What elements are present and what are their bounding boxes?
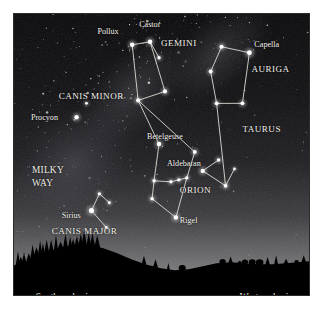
star-ori-belt2 — [177, 178, 180, 181]
tree-trunk — [65, 246, 66, 249]
label-constellation-canis-major: CANIS MAJOR — [52, 226, 118, 236]
tree-trunk — [51, 249, 52, 252]
tree-trunk — [92, 245, 93, 248]
star-sirius — [89, 208, 94, 213]
star-procyon — [74, 115, 78, 119]
star-ori-belt3 — [185, 176, 188, 179]
star-aur-capella — [247, 50, 252, 55]
tree-trunk — [259, 264, 260, 266]
tree-trunk — [276, 263, 277, 266]
tree-trunk — [97, 246, 98, 249]
label-constellation-auriga: AURIGA — [251, 64, 289, 74]
label-star-capella: Capella — [254, 40, 279, 49]
label-southern-horizon: Southern horizon — [36, 292, 102, 295]
tree-trunk — [252, 263, 253, 265]
tree-trunk — [80, 244, 81, 247]
tree-trunk — [70, 245, 71, 248]
tree-trunk — [42, 252, 43, 255]
tree-trunk — [36, 255, 37, 258]
label-constellation-taurus: TAURUS — [242, 124, 280, 134]
star-cma-e — [108, 201, 111, 204]
star-betelgeuse — [157, 142, 162, 147]
sky-map: PolluxCastorCapellaProcyonBetelgeuseAlde… — [14, 14, 309, 295]
label-constellation-canis-minor: CANIS MINOR — [59, 91, 124, 101]
star-gem-se — [163, 89, 167, 93]
tree-trunk — [28, 259, 29, 262]
star-chart-frame: PolluxCastorCapellaProcyonBetelgeuseAlde… — [13, 13, 310, 296]
tree-trunk — [303, 261, 304, 264]
tree-trunk — [296, 262, 297, 264]
tree-trunk — [84, 244, 85, 247]
star-cma-n — [98, 192, 101, 195]
tree-trunk — [88, 244, 89, 247]
star-gem-sw — [136, 98, 140, 102]
tree-trunk — [56, 248, 57, 251]
label-region-milky-way-line1: MILKY — [32, 165, 64, 175]
star-ori-rigel — [174, 215, 179, 220]
tree-trunk — [168, 268, 169, 271]
star-tau-tip — [233, 168, 236, 171]
label-constellation-orion: ORION — [180, 185, 211, 195]
star-tau-v2 — [224, 184, 228, 188]
star-aur-n — [220, 45, 224, 49]
tree-trunk — [245, 263, 246, 265]
star-ori-shoulder — [193, 150, 197, 154]
tree-trunk — [76, 244, 77, 247]
star-tau-v1 — [217, 158, 221, 162]
tree-trunk — [32, 257, 33, 260]
label-star-rigel: Rigel — [180, 217, 198, 226]
tree-trunk — [267, 263, 268, 266]
star-aur-sw — [215, 101, 219, 105]
star-ori-bellatrix — [152, 179, 155, 182]
label-western-horizon: Western horizon — [240, 292, 303, 295]
star-gem-e — [157, 56, 160, 59]
tree-trunk — [46, 251, 47, 254]
tree-trunk — [182, 269, 183, 271]
star-ori-saiph — [150, 197, 154, 201]
tree-trunk — [20, 262, 21, 265]
label-star-castor: Castor — [139, 20, 161, 29]
label-star-sirius: Sirius — [62, 211, 81, 220]
tree-trunk — [239, 262, 240, 264]
tree-trunk — [155, 266, 156, 269]
tree-trunk — [24, 261, 25, 264]
star-ori-belt1 — [169, 180, 172, 183]
star-pollux — [130, 42, 135, 47]
star-aur-s — [240, 101, 244, 105]
label-constellation-gemini: GEMINI — [161, 38, 197, 48]
star-castor — [148, 40, 153, 45]
label-star-procyon: Procyon — [31, 113, 58, 122]
tree-trunk — [230, 261, 231, 264]
tree-trunk — [143, 263, 144, 266]
tree-trunk — [222, 262, 223, 264]
star-aur-w — [209, 70, 213, 74]
star-cmi-north — [85, 102, 88, 105]
tree-trunk — [60, 247, 61, 250]
star-tau-aldebaran — [201, 169, 205, 173]
tree-trunk — [40, 253, 41, 256]
label-region-milky-way-line2: WAY — [32, 178, 53, 188]
tree-trunk — [73, 245, 74, 248]
label-star-betelgeuse: Betelgeuse — [147, 132, 183, 141]
label-star-aldebaran: Aldebaran — [167, 159, 201, 168]
tree-trunk — [286, 262, 287, 265]
label-star-pollux: Pollux — [97, 27, 118, 36]
